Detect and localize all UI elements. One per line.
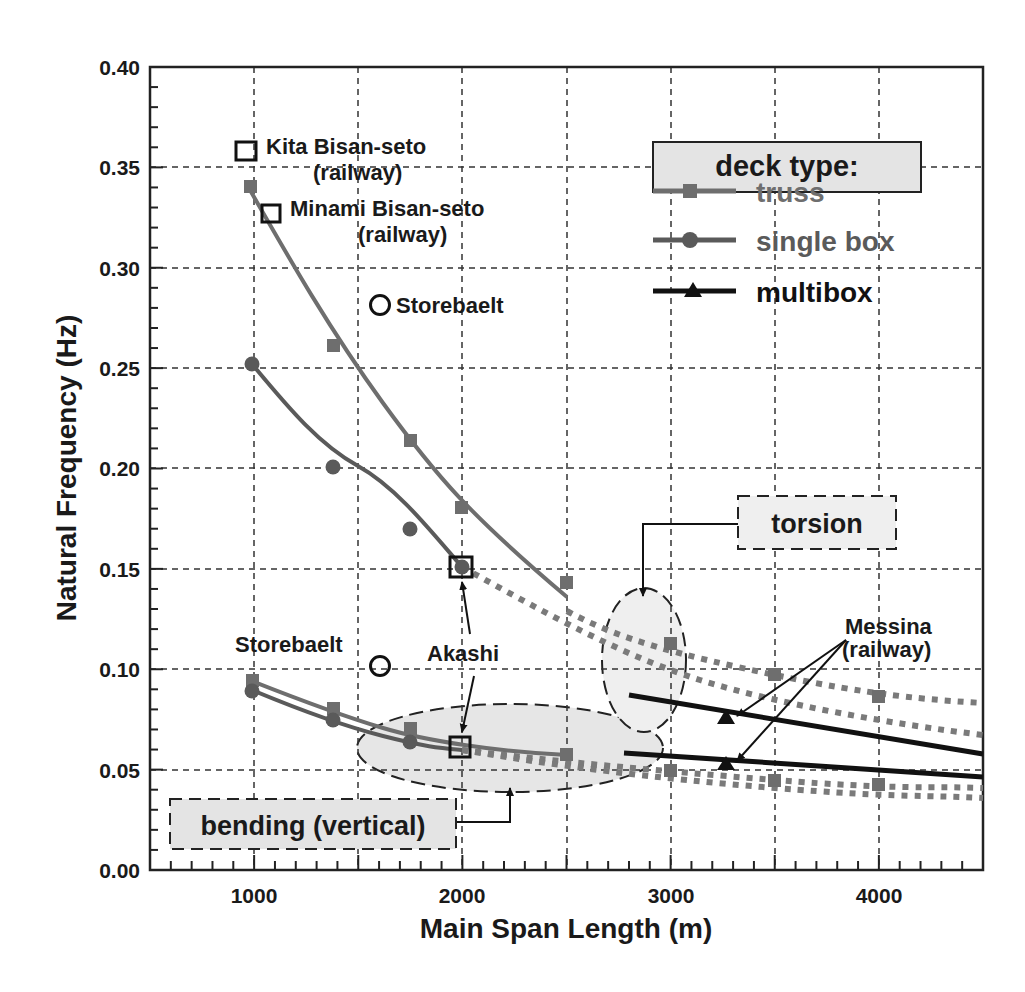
multibox-torsion-line bbox=[629, 695, 983, 754]
annotation-regions bbox=[357, 588, 686, 792]
storebaelt-bottom-label: Storebaelt bbox=[235, 632, 343, 657]
messina-label: Messina bbox=[845, 614, 933, 639]
storebaelt-bottom-marker bbox=[371, 657, 390, 676]
y-tick-label: 0.15 bbox=[99, 558, 140, 581]
frequency-chart: deck type: truss single box multibox Kit… bbox=[0, 0, 1025, 992]
storebaelt-top-marker bbox=[371, 296, 390, 315]
legend-truss-label: truss bbox=[756, 177, 824, 208]
y-axis-title: Natural Frequency (Hz) bbox=[51, 315, 82, 622]
kita-label: Kita Bisan-seto bbox=[266, 134, 426, 159]
truss-markers bbox=[244, 180, 885, 791]
akashi-label: Akashi bbox=[427, 641, 499, 666]
legend-single-label: single box bbox=[756, 226, 895, 257]
bending-region bbox=[357, 704, 663, 792]
x-axis-title: Main Span Length (m) bbox=[420, 913, 712, 944]
multibox-bending-line bbox=[624, 753, 983, 777]
y-tick-label: 0.30 bbox=[99, 257, 140, 280]
storebaelt-top-label: Storebaelt bbox=[396, 293, 504, 318]
y-tick-label: 0.05 bbox=[99, 759, 140, 782]
x-tick-label: 3000 bbox=[648, 884, 695, 907]
legend-multi-label: multibox bbox=[756, 277, 873, 308]
y-tick-label: 0.40 bbox=[99, 56, 140, 79]
torsion-region bbox=[602, 588, 686, 732]
x-tick-label: 2000 bbox=[439, 884, 486, 907]
bending-label: bending (vertical) bbox=[200, 811, 425, 841]
y-tick-label: 0.35 bbox=[99, 156, 140, 179]
x-tick-label: 4000 bbox=[856, 884, 903, 907]
y-tick-label: 0.00 bbox=[99, 859, 140, 882]
y-tick-label: 0.10 bbox=[99, 658, 140, 681]
messina-railway: (railway) bbox=[842, 637, 931, 662]
y-tick-label: 0.25 bbox=[99, 357, 140, 380]
kita-railway: (railway) bbox=[313, 160, 402, 185]
kita-marker bbox=[236, 142, 256, 160]
torsion-label: torsion bbox=[771, 509, 863, 539]
x-tick-label: 1000 bbox=[231, 884, 278, 907]
minami-label: Minami Bisan-seto bbox=[290, 196, 484, 221]
legend bbox=[653, 184, 736, 297]
y-tick-label: 0.20 bbox=[99, 457, 140, 480]
minami-railway: (railway) bbox=[358, 222, 447, 247]
